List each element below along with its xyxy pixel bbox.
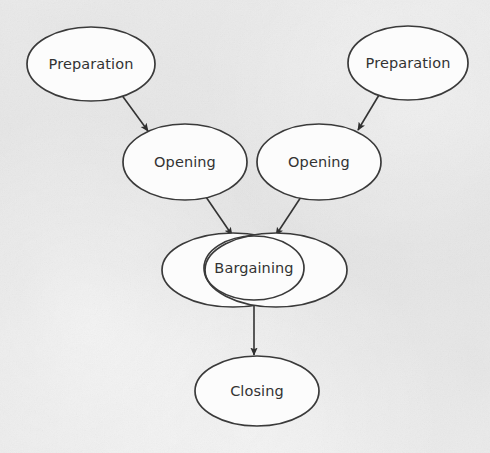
edge-preparation-right-to-opening-right	[358, 95, 379, 130]
node-label-opening-right: Opening	[288, 154, 350, 170]
node-preparation-right[interactable]: Preparation	[348, 26, 468, 100]
process-flow-diagram: Preparation Preparation Opening Opening …	[0, 0, 490, 453]
node-label-opening-left: Opening	[154, 154, 216, 170]
node-label-preparation-right: Preparation	[366, 55, 451, 71]
node-label-closing: Closing	[230, 383, 284, 399]
node-preparation-left[interactable]: Preparation	[27, 27, 155, 101]
node-closing[interactable]: Closing	[195, 356, 319, 426]
diagram-canvas: Preparation Preparation Opening Opening …	[0, 0, 490, 453]
node-bargaining[interactable]: Bargaining	[162, 233, 347, 307]
edge-preparation-left-to-opening-left	[121, 94, 148, 131]
node-label-bargaining: Bargaining	[214, 260, 293, 276]
node-label-preparation-left: Preparation	[49, 56, 134, 72]
node-opening-left[interactable]: Opening	[123, 124, 247, 200]
node-opening-right[interactable]: Opening	[257, 124, 381, 200]
edge-opening-left-to-bargaining	[206, 197, 232, 235]
edge-opening-right-to-bargaining	[276, 197, 301, 235]
